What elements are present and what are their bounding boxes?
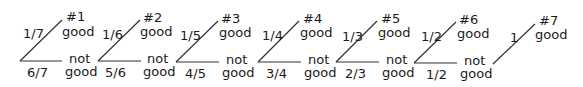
stage-2-not-good-label: good xyxy=(143,65,175,78)
stage-1-p-not: 6/7 xyxy=(27,66,48,79)
stage-3-good-label: good xyxy=(219,26,251,39)
stage-1-p-good: 1/7 xyxy=(23,27,44,40)
stage-1-not-good-label: good xyxy=(65,65,97,78)
stage-3-p-good: 1/5 xyxy=(180,29,201,42)
stage-5-p-good: 1/3 xyxy=(342,30,363,43)
stage-6-good-label: good xyxy=(457,27,489,40)
stage-6-p-good: 1/2 xyxy=(421,30,442,43)
stage-2-p-not: 5/6 xyxy=(105,66,126,79)
stage-4-p-good: 1/4 xyxy=(262,29,283,42)
stage-3-p-not: 4/5 xyxy=(185,67,206,80)
stage-1-id: #1 xyxy=(66,10,85,23)
stage-6-p-not: 1/2 xyxy=(426,68,447,81)
stage-7-good-label: good xyxy=(535,28,567,41)
stage-5-id: #5 xyxy=(381,12,400,25)
stage-5-good-label: good xyxy=(378,26,410,39)
stage-7-id: #7 xyxy=(539,14,558,27)
stage-7-p-good: 1 xyxy=(510,31,518,44)
stage-3-not-good-label: good xyxy=(222,66,254,79)
stage-5-not-good-label: good xyxy=(382,66,414,79)
stage-5-p-not: 2/3 xyxy=(345,67,366,80)
stage-6-id: #6 xyxy=(459,13,478,26)
stage-1-good-label: good xyxy=(62,25,94,38)
stage-4-id: #4 xyxy=(303,12,322,25)
stage-4-p-not: 3/4 xyxy=(266,67,287,80)
stage-4-good-label: good xyxy=(300,26,332,39)
stage-6-not-good-label: good xyxy=(460,67,492,80)
stage-4-not-good-label: good xyxy=(304,66,336,79)
stage-2-id: #2 xyxy=(143,11,162,24)
stage-2-p-good: 1/6 xyxy=(102,28,123,41)
stage-2-good-label: good xyxy=(140,25,172,38)
stage-3-id: #3 xyxy=(221,12,240,25)
